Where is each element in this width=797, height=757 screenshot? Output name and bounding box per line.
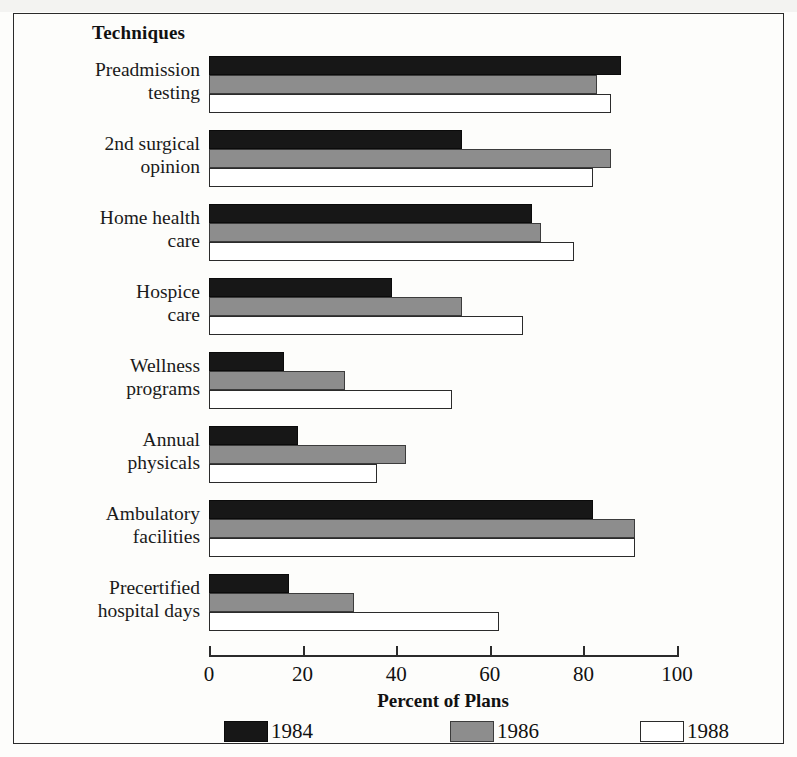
category-label-line: care (0, 303, 200, 326)
category-label: Home healthcare (0, 206, 200, 252)
white-swatch (640, 721, 684, 742)
x-axis-tick-label: 0 (179, 662, 239, 687)
category-label-line: Wellness (0, 354, 200, 377)
category-label-line: Annual (0, 428, 200, 451)
bar-1986 (209, 519, 635, 538)
category-label: 2nd surgicalopinion (0, 132, 200, 178)
plot-title-techniques: Techniques (92, 22, 185, 44)
bar-1988 (209, 316, 523, 335)
category-label-line: Hospice (0, 280, 200, 303)
x-axis-tick (677, 646, 679, 657)
category-label-line: hospital days (0, 599, 200, 622)
x-axis-tick (583, 646, 585, 657)
x-axis-tick (209, 646, 211, 657)
category-label-line: 2nd surgical (0, 132, 200, 155)
category-label-line: physicals (0, 451, 200, 474)
category-label-line: Home health (0, 206, 200, 229)
black-swatch (224, 721, 268, 742)
category-label-line: Ambulatory (0, 502, 200, 525)
bar-1986 (209, 75, 597, 94)
bar-1984 (209, 574, 289, 593)
legend-label: 1984 (271, 719, 313, 744)
category-label-line: testing (0, 81, 200, 104)
category-label: Annualphysicals (0, 428, 200, 474)
bar-group: Ambulatoryfacilities (0, 500, 797, 574)
category-label: Hospicecare (0, 280, 200, 326)
x-axis-tick-label: 60 (460, 662, 520, 687)
bar-1988 (209, 168, 593, 187)
bar-group: 2nd surgicalopinion (0, 130, 797, 204)
category-label-line: Precertified (0, 576, 200, 599)
bar-1984 (209, 278, 392, 297)
category-label: Ambulatoryfacilities (0, 502, 200, 548)
bar-1984 (209, 56, 621, 75)
legend-item-1984: 1984 (224, 718, 313, 744)
bar-1986 (209, 593, 354, 612)
bar-1986 (209, 149, 611, 168)
bar-1988 (209, 464, 377, 483)
bar-1984 (209, 500, 593, 519)
bar-1984 (209, 352, 284, 371)
x-axis-tick (490, 646, 492, 657)
bar-1988 (209, 242, 574, 261)
category-label-line: Preadmission (0, 58, 200, 81)
legend-label: 1986 (497, 719, 539, 744)
category-label: Wellnessprograms (0, 354, 200, 400)
bar-1988 (209, 612, 499, 631)
category-label-line: programs (0, 377, 200, 400)
bar-1986 (209, 371, 345, 390)
bar-1988 (209, 538, 635, 557)
x-axis-line (209, 655, 677, 657)
category-label-line: care (0, 229, 200, 252)
bar-group: Annualphysicals (0, 426, 797, 500)
bar-1986 (209, 297, 462, 316)
plot-area: Techniques Preadmissiontesting2nd surgic… (0, 0, 797, 757)
bar-1984 (209, 426, 298, 445)
bar-1988 (209, 94, 611, 113)
bar-1988 (209, 390, 452, 409)
category-label-line: opinion (0, 155, 200, 178)
bar-1984 (209, 204, 532, 223)
legend-item-1988: 1988 (640, 718, 729, 744)
category-label: Preadmissiontesting (0, 58, 200, 104)
bar-group: Preadmissiontesting (0, 56, 797, 130)
x-axis-tick-label: 40 (366, 662, 426, 687)
bar-group: Home healthcare (0, 204, 797, 278)
legend-label: 1988 (687, 719, 729, 744)
x-axis-tick (396, 646, 398, 657)
category-label-line: facilities (0, 525, 200, 548)
x-axis-tick-label: 20 (273, 662, 333, 687)
legend-item-1986: 1986 (450, 718, 539, 744)
bar-group: Hospicecare (0, 278, 797, 352)
bar-1986 (209, 445, 406, 464)
x-axis-title: Percent of Plans (209, 690, 677, 712)
x-axis-tick-label: 100 (647, 662, 707, 687)
gray-swatch (450, 721, 494, 742)
bar-1986 (209, 223, 541, 242)
chart-legend: 198419861988 (0, 718, 797, 748)
chart-figure: Techniques Preadmissiontesting2nd surgic… (0, 0, 797, 757)
category-label: Precertifiedhospital days (0, 576, 200, 622)
x-axis-tick-label: 80 (553, 662, 613, 687)
bar-group: Precertifiedhospital days (0, 574, 797, 648)
bar-group: Wellnessprograms (0, 352, 797, 426)
bar-1984 (209, 130, 462, 149)
x-axis-tick (303, 646, 305, 657)
